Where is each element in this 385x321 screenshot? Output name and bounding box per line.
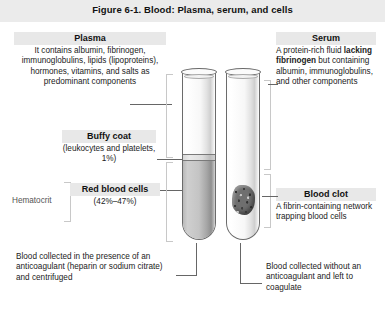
tube-body-left [182,72,216,240]
red-blood-cells-callout: Red blood cells (42%–47%) [70,183,160,207]
right-caption: Blood collected without an anticoagulant… [266,262,382,293]
buffy-coat-body: (leukocytes and platelets, 1%) [62,144,156,165]
serum-leader-line [268,84,278,85]
serum-bracket [264,80,271,170]
clotted-blood-tube [226,72,260,240]
blood-clot-callout: Blood clot A fibrin-containing network t… [276,188,376,223]
serum-callout: Serum A protein-rich fluid lacking fibri… [276,32,376,88]
serum-heading: Serum [276,32,376,45]
centrifuged-blood-tube [182,72,216,240]
red-cell-layer [183,161,215,239]
blood-clot-mass [232,185,255,215]
serum-body: A protein-rich fluid lacking fibrinogen … [276,46,376,88]
tube-rim-inner-left [184,74,214,79]
left-caption: Blood collected in the presence of an an… [16,252,176,283]
buffy-coat-layer [183,154,215,161]
right-caption-leader-vertical [240,243,241,283]
plasma-heading: Plasma [14,32,166,45]
left-caption-leader-horizontal [176,275,197,276]
plasma-body: It contains albumin, fibrinogen, immunog… [14,46,166,88]
right-caption-leader-horizontal [240,283,262,284]
red-blood-cells-body: (42%–47%) [70,197,160,207]
serum-body-part1: A protein-rich fluid [276,46,344,55]
clot-bracket [264,174,271,228]
page-title: Figure 6-1. Blood: Plasma, serum, and ce… [0,4,385,15]
buffy-coat-callout: Buffy coat (leukocytes and platelets, 1%… [62,130,156,165]
plasma-callout: Plasma It contains albumin, fibrinogen, … [14,32,166,88]
blood-clot-body: A fibrin-containing network trapping blo… [276,202,376,223]
red-blood-cells-heading: Red blood cells [70,183,160,196]
tube-body-right [226,72,260,240]
buffy-coat-heading: Buffy coat [62,130,156,143]
figure-container: Figure 6-1. Blood: Plasma, serum, and ce… [0,0,385,321]
plasma-bracket [166,74,173,158]
blood-clot-heading: Blood clot [276,188,376,201]
hematocrit-label: Hematocrit [12,196,52,206]
blood-clot-leader-line [262,196,278,197]
red-cell-bracket [166,162,173,242]
tube-rim-inner-right [228,74,258,79]
left-caption-leader-vertical [196,243,197,275]
